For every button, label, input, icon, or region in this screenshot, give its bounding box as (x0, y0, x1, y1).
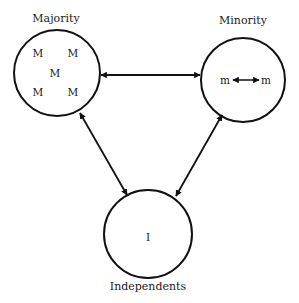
influence-diagram: Majority M M M M M Minority m m I Indepe… (0, 0, 299, 303)
majority-member: M (33, 47, 44, 59)
minority-member: m (220, 74, 230, 86)
independents-node: I Independents (104, 190, 192, 293)
independents-label: Independents (110, 280, 187, 293)
majority-label: Majority (32, 12, 80, 25)
majority-member: M (50, 67, 61, 79)
majority-member: M (33, 86, 44, 98)
majority-member: M (68, 86, 79, 98)
edge-majority-independents-arrow (80, 113, 127, 195)
edge-minority-independents-arrow (176, 115, 222, 196)
majority-member: M (68, 47, 79, 59)
minority-node: Minority m m (201, 14, 285, 122)
independents-member: I (146, 231, 150, 243)
majority-node: Majority M M M M M (14, 12, 100, 116)
minority-label: Minority (219, 14, 268, 27)
minority-member: m (261, 74, 271, 86)
